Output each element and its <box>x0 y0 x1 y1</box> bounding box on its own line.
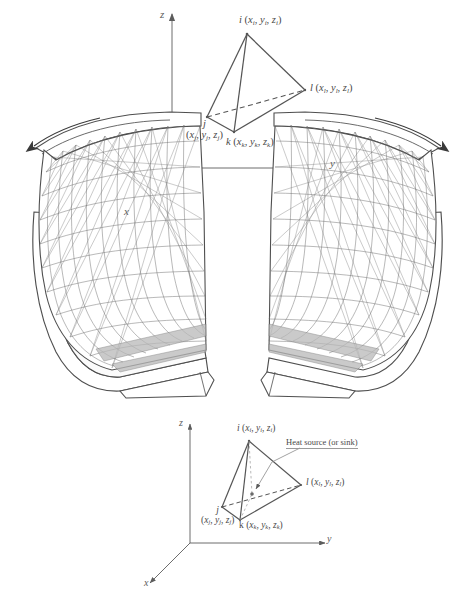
left-turbine-blade <box>33 112 214 398</box>
top-axis-label-x: x <box>124 206 129 218</box>
top-vertex-label-k: k (xk, yk, zk) <box>226 136 274 149</box>
bottom-vertex-label-j: j (xj, yj, zj) <box>201 506 234 526</box>
bottom-axis-label-x: x <box>144 578 148 589</box>
bottom-vertex-label-l: l (xl, yl, zl) <box>306 478 344 488</box>
bottom-vertex-label-k: k (xk, yk, zk) <box>239 521 283 531</box>
top-axis-label-z: z <box>160 9 164 21</box>
diagram-svg <box>0 0 475 600</box>
bottom-axis-label-z: z <box>179 418 183 429</box>
right-turbine-blade <box>261 112 442 398</box>
bottom-axis-label-y: y <box>327 534 331 545</box>
top-vertex-label-i: i (xi, yi, zi) <box>239 14 281 27</box>
top-vertex-label-j: j (xj, yj, zj) <box>186 118 223 142</box>
heat-source-leader <box>256 448 300 489</box>
top-axis-label-y: y <box>330 158 335 170</box>
top-vertex-label-l: l (xl, yl, zl) <box>310 82 352 95</box>
heat-source-annotation: Heat source (or sink) <box>286 437 358 449</box>
figure-canvas: z y x i (xi, yi, zi) l (xl, yl, zl) j (x… <box>0 0 475 600</box>
bottom-vertex-label-i: i (xi, yi, zi) <box>237 424 275 434</box>
